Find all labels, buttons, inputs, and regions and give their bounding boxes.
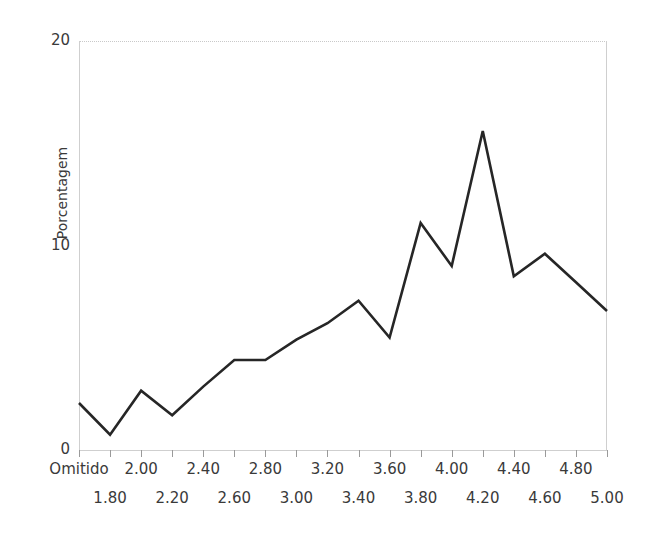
x-axis-tick-label: 4.00	[435, 462, 468, 477]
x-axis-tick-label: 2.40	[187, 462, 220, 477]
x-axis-tick-mark	[110, 450, 111, 457]
x-axis-tick-mark	[265, 450, 266, 457]
x-axis-tick-mark	[79, 450, 80, 457]
x-axis-tick-label: 4.80	[559, 462, 592, 477]
x-axis-tick-label: 5.00	[590, 491, 623, 506]
x-axis-tick-mark	[327, 450, 328, 457]
x-axis-tick-mark	[359, 450, 360, 457]
line-chart-figure: 20100 Porcentagem Omitido1.802.002.202.4…	[0, 0, 646, 536]
x-axis-tick-mark	[452, 450, 453, 457]
x-axis-tick-mark	[390, 450, 391, 457]
x-axis-tick-mark	[545, 450, 546, 457]
x-axis-tick-marks	[79, 450, 607, 458]
x-axis-tick-mark	[296, 450, 297, 457]
x-axis-tick-label: 3.00	[280, 491, 313, 506]
x-axis-tick-label: 4.40	[497, 462, 530, 477]
x-axis-tick-mark	[483, 450, 484, 457]
x-axis-tick-mark	[514, 450, 515, 457]
x-axis-tick-label: 2.20	[155, 491, 188, 506]
plot-area	[79, 41, 607, 450]
x-axis-tick-label: 2.00	[124, 462, 157, 477]
x-axis-tick-mark	[421, 450, 422, 457]
x-axis-tick-mark	[607, 450, 608, 457]
y-axis-title: Porcentagem	[54, 113, 70, 273]
y-axis-tick-label: 20	[51, 33, 70, 48]
y-axis-tick-label: 0	[60, 442, 70, 457]
x-axis-tick-label: 3.60	[373, 462, 406, 477]
x-axis-tick-label: 3.80	[404, 491, 437, 506]
x-axis-tick-labels: Omitido1.802.002.202.402.602.803.003.203…	[0, 458, 646, 528]
x-axis-tick-mark	[234, 450, 235, 457]
x-axis-tick-label: Omitido	[49, 462, 108, 477]
x-axis-tick-label: 3.40	[342, 491, 375, 506]
x-axis-tick-label: 3.20	[311, 462, 344, 477]
x-axis-tick-mark	[203, 450, 204, 457]
x-axis-tick-mark	[576, 450, 577, 457]
x-axis-tick-label: 2.80	[249, 462, 282, 477]
x-axis-tick-label: 2.60	[218, 491, 251, 506]
series-line-porcentagem	[79, 41, 607, 450]
x-axis-tick-label: 4.20	[466, 491, 499, 506]
x-axis-tick-mark	[141, 450, 142, 457]
x-axis-tick-label: 1.80	[93, 491, 126, 506]
x-axis-tick-mark	[172, 450, 173, 457]
x-axis-tick-label: 4.60	[528, 491, 561, 506]
